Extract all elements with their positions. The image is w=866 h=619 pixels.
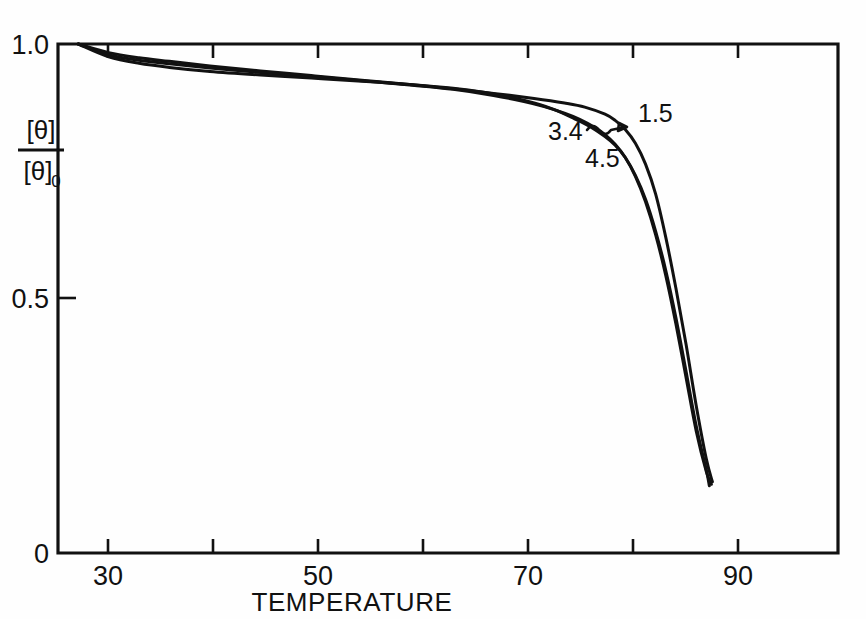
y-axis-numerator: [θ] bbox=[27, 115, 56, 145]
curve-1.5 bbox=[78, 44, 712, 482]
curve-3.4 bbox=[78, 44, 711, 484]
y-axis-denominator-subscript: 0 bbox=[51, 172, 60, 191]
x-tick-label-30: 30 bbox=[93, 561, 123, 591]
y-tick-label-top: 1.0 bbox=[11, 30, 49, 60]
y-tick-label-bottom: 0 bbox=[34, 539, 49, 569]
curve-group bbox=[78, 44, 712, 486]
y-axis-denominator: [θ] bbox=[24, 156, 53, 186]
top-axis-ticks bbox=[108, 44, 738, 58]
x-axis-ticks bbox=[108, 539, 738, 553]
x-tick-label-90: 90 bbox=[723, 561, 753, 591]
y-tick-label-mid: 0.5 bbox=[11, 284, 49, 314]
x-tick-label-70: 70 bbox=[513, 561, 543, 591]
plot-frame bbox=[58, 44, 838, 553]
x-axis-title: TEMPERATURE bbox=[251, 587, 452, 617]
chart-plot: 1.5 3.4 4.5 1.0 0.5 0 30 50 70 90 TEMPER… bbox=[0, 0, 866, 619]
curve-label-1: 1.5 bbox=[638, 99, 673, 127]
curve-label-3: 4.5 bbox=[585, 144, 620, 172]
curve-4.5 bbox=[78, 44, 709, 486]
curve-label-2: 3.4 bbox=[548, 117, 583, 145]
figure-container: 1.5 3.4 4.5 1.0 0.5 0 30 50 70 90 TEMPER… bbox=[0, 0, 866, 619]
